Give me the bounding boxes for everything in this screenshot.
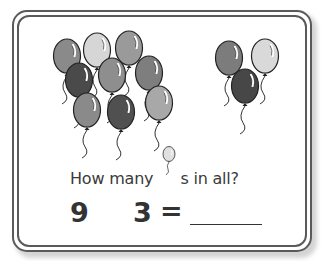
- equation-equals-sign: =: [160, 197, 183, 224]
- question-prefix: How many: [70, 169, 153, 188]
- balloon-icon: [104, 94, 138, 166]
- balloon-icon: [157, 160, 179, 188]
- question-text: How many s in all?: [70, 160, 239, 188]
- balloon-icon: [70, 92, 104, 164]
- equation-second-number: 3: [133, 199, 152, 226]
- question-suffix: s in all?: [180, 169, 238, 188]
- equation-first-number: 9: [70, 199, 89, 226]
- answer-blank[interactable]: [190, 224, 262, 225]
- balloon-icon: [228, 68, 262, 140]
